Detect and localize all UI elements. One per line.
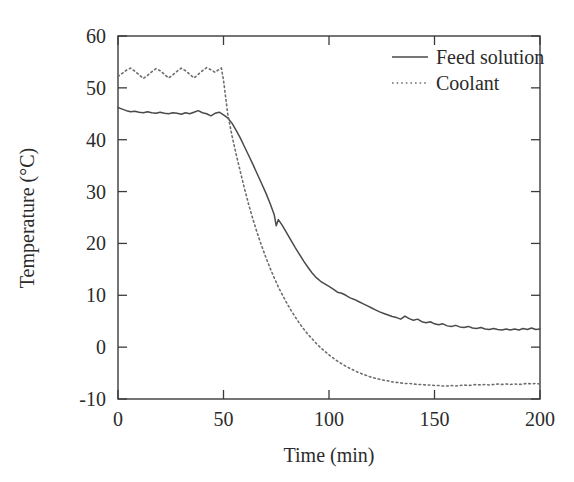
y-tick-label: 20: [86, 232, 106, 254]
x-tick-label: 200: [525, 408, 555, 430]
y-tick-label: -10: [79, 388, 106, 410]
x-tick-label: 100: [314, 408, 344, 430]
y-axis-title: Temperature (°C): [16, 148, 39, 288]
legend-label-coolant: Coolant: [436, 72, 500, 94]
x-tick-label: 150: [420, 408, 450, 430]
x-axis-title: Time (min): [284, 444, 375, 467]
temperature-time-line-chart: -100102030405060 050100150200 Time (min)…: [0, 0, 574, 482]
y-tick-label: 10: [86, 284, 106, 306]
x-tick-label: 0: [113, 408, 123, 430]
y-tick-label: 40: [86, 129, 106, 151]
y-tick-label: 60: [86, 25, 106, 47]
legend-label-feed-solution: Feed solution: [436, 46, 544, 68]
chart-figure: -100102030405060 050100150200 Time (min)…: [0, 0, 574, 482]
y-tick-label: 30: [86, 181, 106, 203]
y-tick-label: 50: [86, 77, 106, 99]
y-tick-label: 0: [96, 336, 106, 358]
x-tick-label: 50: [214, 408, 234, 430]
